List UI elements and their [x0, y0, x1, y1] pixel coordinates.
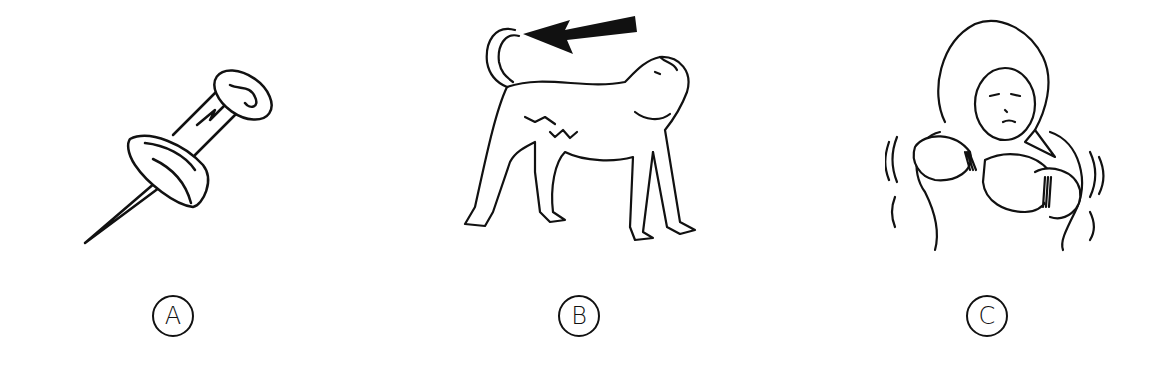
option-a-image[interactable] [75, 55, 285, 255]
arrow-icon [523, 16, 637, 54]
option-a-label[interactable]: A [152, 295, 194, 337]
option-b-label[interactable]: B [558, 295, 600, 337]
option-b-image[interactable] [455, 12, 705, 252]
dog-icon [455, 12, 705, 252]
push-pin-icon [75, 55, 285, 255]
option-c-image[interactable] [885, 12, 1110, 252]
option-c-label[interactable]: C [966, 295, 1008, 337]
option-letter: C [979, 302, 996, 330]
option-letter: A [165, 302, 181, 330]
option-letter: B [571, 302, 587, 330]
shivering-child-icon [885, 12, 1110, 252]
